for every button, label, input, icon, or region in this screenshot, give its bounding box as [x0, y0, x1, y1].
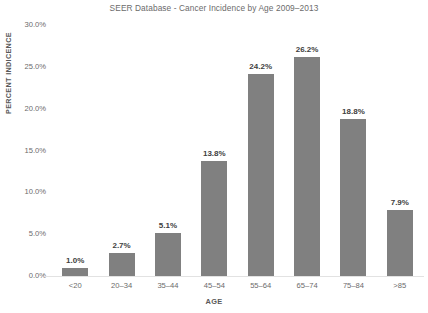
- bar-chart: SEER Database - Cancer Incidence by Age …: [0, 0, 428, 313]
- y-axis-tick-label: 30.0%: [8, 20, 46, 29]
- y-axis-tick-label: 0.0%: [8, 271, 46, 280]
- y-axis-tick-label: 20.0%: [8, 104, 46, 113]
- y-axis-tick-label: 5.0%: [8, 229, 46, 238]
- bar-value-label: 2.7%: [112, 241, 130, 250]
- x-axis-baseline: [44, 276, 424, 277]
- bar-value-label: 5.1%: [159, 221, 177, 230]
- y-axis-tick-label: 15.0%: [8, 146, 46, 155]
- bar-group: 5.1%: [145, 25, 191, 276]
- bar[interactable]: [340, 119, 366, 276]
- x-axis-title: AGE: [0, 297, 428, 306]
- bar-group: 24.2%: [238, 25, 284, 276]
- bar-group: 2.7%: [99, 25, 145, 276]
- bar-value-label: 26.2%: [296, 45, 319, 54]
- bar[interactable]: [387, 210, 413, 276]
- bar-value-label: 13.8%: [203, 149, 226, 158]
- bar[interactable]: [248, 74, 274, 276]
- y-axis-tick-label: 25.0%: [8, 62, 46, 71]
- bar-value-label: 1.0%: [66, 256, 84, 265]
- bar-group: 18.8%: [330, 25, 376, 276]
- bar-group: 26.2%: [284, 25, 330, 276]
- bar[interactable]: [62, 268, 88, 276]
- bar[interactable]: [294, 57, 320, 276]
- plot-area: 1.0%2.7%5.1%13.8%24.2%26.2%18.8%7.9%: [52, 25, 423, 276]
- chart-title: SEER Database - Cancer Incidence by Age …: [0, 3, 428, 13]
- bar-value-label: 18.8%: [342, 107, 365, 116]
- y-axis-tick-label: 10.0%: [8, 187, 46, 196]
- bar[interactable]: [155, 233, 181, 276]
- bar-group: 1.0%: [52, 25, 98, 276]
- bar[interactable]: [201, 161, 227, 276]
- bar-group: 7.9%: [377, 25, 423, 276]
- bar-value-label: 7.9%: [391, 198, 409, 207]
- bar-group: 13.8%: [191, 25, 237, 276]
- bar-value-label: 24.2%: [249, 62, 272, 71]
- x-axis-tick-label: >85: [370, 281, 428, 290]
- bar[interactable]: [109, 253, 135, 276]
